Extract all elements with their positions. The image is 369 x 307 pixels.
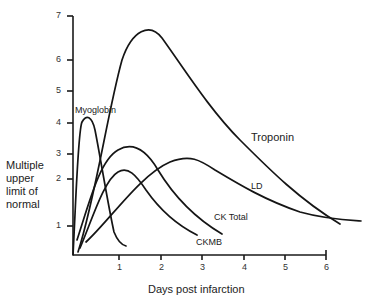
troponin-curve: [78, 30, 340, 252]
x-tick-3: 3: [200, 262, 205, 272]
x-tick-1: 1: [117, 262, 122, 272]
x-tick-5: 5: [283, 262, 288, 272]
label-troponin: Troponin: [251, 131, 294, 143]
label-myoglobin: Myoglobin: [75, 105, 116, 115]
x-axis-label: Days post infarction: [148, 283, 245, 295]
y-label-line: upper: [6, 172, 66, 185]
y-tick-3: 3: [56, 148, 61, 158]
ckmb-curve: [80, 170, 197, 248]
y-tick-7: 7: [56, 10, 61, 20]
x-tick-6: 6: [324, 262, 329, 272]
y-tick-6: 6: [56, 54, 61, 64]
x-tick-4: 4: [242, 262, 247, 272]
y-label-line: limit of: [6, 185, 66, 198]
y-tick-4: 4: [56, 117, 61, 127]
label-ckmb: CKMB: [196, 237, 222, 247]
label-ck-total: CK Total: [214, 212, 248, 222]
myoglobin-curve: [73, 117, 126, 255]
y-tick-5: 5: [56, 85, 61, 95]
y-label-line: normal: [6, 198, 66, 211]
y-label-line: Multiple: [6, 159, 66, 172]
x-tick-2: 2: [159, 262, 164, 272]
label-ld: LD: [251, 181, 263, 191]
y-tick-1: 1: [56, 220, 61, 230]
y-axis-label: Multiple upper limit of normal: [6, 159, 66, 211]
